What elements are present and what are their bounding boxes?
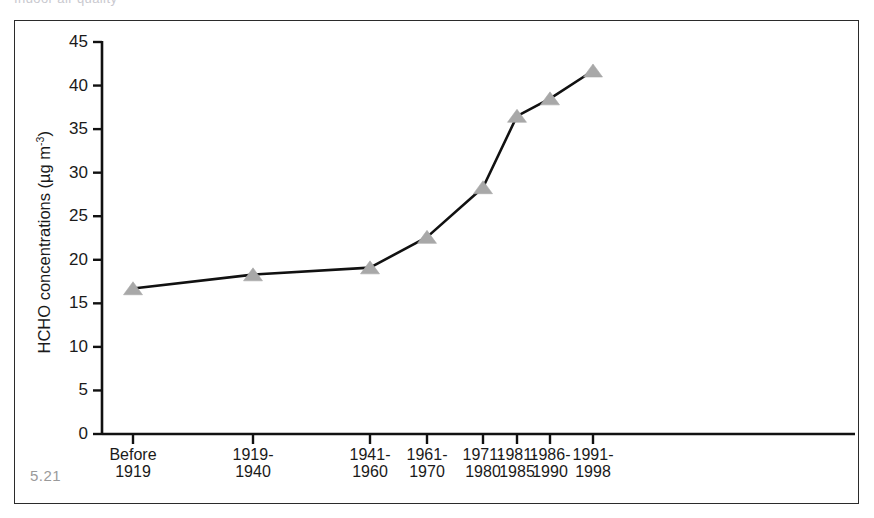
y-tick-label: 25 bbox=[44, 207, 88, 224]
figure-number-label: 5.21 bbox=[30, 467, 61, 484]
x-tick-label: 1941-1960 bbox=[350, 446, 391, 481]
y-tick-label: 5 bbox=[44, 381, 88, 398]
x-tick-label-line: 1990 bbox=[530, 463, 571, 480]
y-tick-label: 35 bbox=[44, 120, 88, 137]
y-tick-label: 20 bbox=[44, 251, 88, 268]
x-tick-label-line: 1919- bbox=[233, 446, 274, 463]
x-tick-label-line: 1998 bbox=[573, 463, 614, 480]
y-tick-label: 30 bbox=[44, 164, 88, 181]
x-tick-label-line: 1941- bbox=[350, 446, 391, 463]
x-tick-label-line: 1970 bbox=[407, 463, 448, 480]
x-tick-label-line: 1940 bbox=[233, 463, 274, 480]
x-tick-label-line: 1961- bbox=[407, 446, 448, 463]
x-tick-label: 1986-1990 bbox=[530, 446, 571, 481]
y-tick-label: 15 bbox=[44, 294, 88, 311]
x-tick-label: 1961-1970 bbox=[407, 446, 448, 481]
figure-frame bbox=[14, 20, 859, 504]
page-top-bleed: Indoor air quality bbox=[0, 0, 874, 14]
y-axis-title: HCHO concentrations (µg m-3) bbox=[34, 52, 55, 432]
x-tick-label: Before1919 bbox=[109, 446, 156, 481]
y-tick-label: 0 bbox=[44, 425, 88, 442]
cut-off-header-text: Indoor air quality bbox=[14, 0, 117, 6]
y-axis-title-exponent: -3 bbox=[34, 137, 46, 146]
x-tick-label: 1991-1998 bbox=[573, 446, 614, 481]
x-tick-label-line: 1960 bbox=[350, 463, 391, 480]
x-tick-label-line: 1919 bbox=[109, 463, 156, 480]
y-tick-label: 40 bbox=[44, 77, 88, 94]
x-tick-label: 1919-1940 bbox=[233, 446, 274, 481]
x-tick-label-line: 1986- bbox=[530, 446, 571, 463]
x-tick-label-line: Before bbox=[109, 446, 156, 463]
y-tick-label: 45 bbox=[44, 33, 88, 50]
x-tick-label-line: 1991- bbox=[573, 446, 614, 463]
y-tick-label: 10 bbox=[44, 338, 88, 355]
